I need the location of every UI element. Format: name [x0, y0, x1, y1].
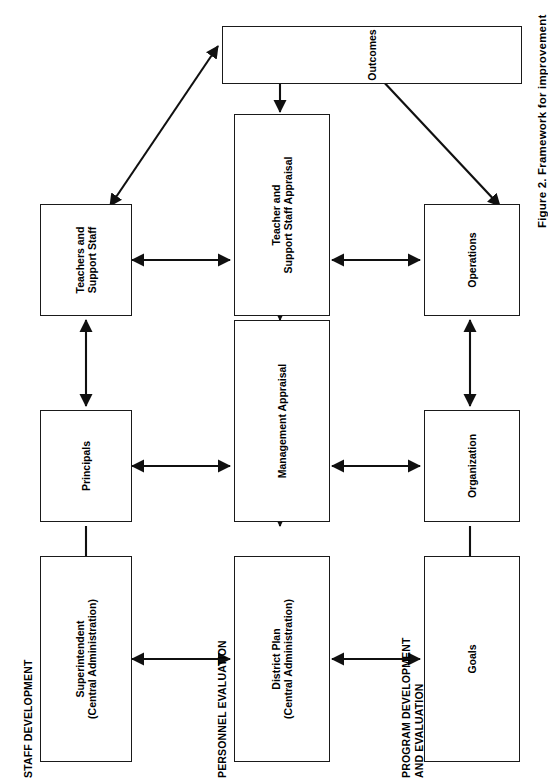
- node-operations-label: Operations: [466, 229, 479, 290]
- band-label-program-development: PROGRAM DEVELOPMENT AND EVALUATION: [400, 637, 426, 778]
- node-outcomes[interactable]: Outcomes: [222, 26, 522, 84]
- node-operations[interactable]: Operations: [424, 204, 520, 316]
- node-teachers-support-staff[interactable]: Teachers and Support Staff: [40, 204, 132, 316]
- node-goals[interactable]: Goals: [424, 556, 520, 762]
- connector-teachers-to-outcomes-diagonal: [110, 46, 218, 206]
- node-teacher-support-staff-appraisal-label: Teacher and Support Staff Appraisal: [270, 154, 295, 277]
- node-superintendent[interactable]: Superintendent (Central Administration): [40, 556, 132, 762]
- node-district-plan[interactable]: District Plan (Central Administration): [234, 556, 330, 762]
- figure-caption: Figure 2. Framework for improvement: [536, 15, 548, 228]
- node-organization[interactable]: Organization: [424, 410, 520, 522]
- node-principals[interactable]: Principals: [40, 410, 132, 522]
- node-management-appraisal[interactable]: Management Appraisal: [234, 320, 330, 522]
- node-principals-label: Principals: [80, 438, 93, 494]
- band-label-personnel-evaluation: PERSONNEL EVALUATION: [216, 640, 229, 778]
- node-superintendent-label: Superintendent (Central Administration): [74, 596, 99, 722]
- band-label-staff-development: STAFF DEVELOPMENT: [22, 660, 35, 778]
- node-district-plan-label: District Plan (Central Administration): [270, 596, 295, 722]
- node-management-appraisal-label: Management Appraisal: [276, 361, 289, 482]
- node-teacher-support-staff-appraisal[interactable]: Teacher and Support Staff Appraisal: [234, 114, 330, 316]
- node-outcomes-label: Outcomes: [366, 26, 379, 83]
- node-teachers-support-staff-label: Teachers and Support Staff: [74, 224, 99, 297]
- node-organization-label: Organization: [466, 431, 479, 501]
- node-goals-label: Goals: [466, 641, 479, 676]
